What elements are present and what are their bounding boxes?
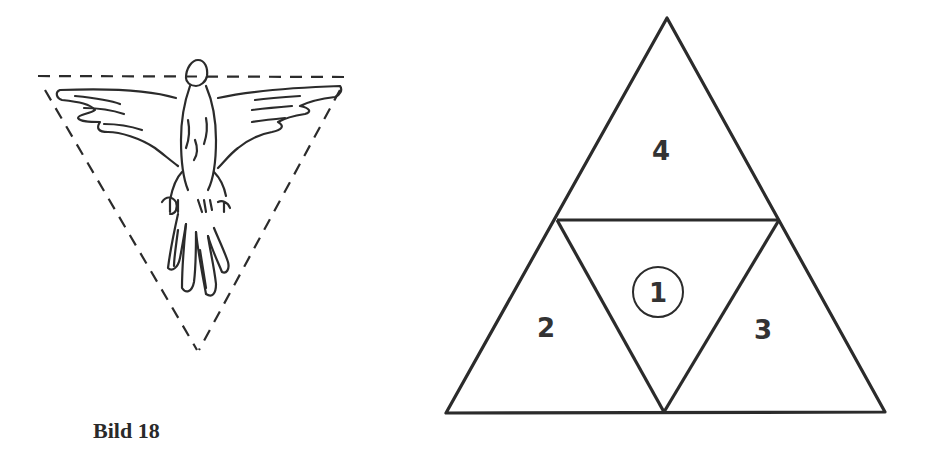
- region-label-1: 1: [649, 278, 667, 308]
- eagle-icon: [57, 60, 341, 296]
- inner-left-edge: [557, 220, 664, 412]
- region-label-4: 4: [652, 136, 670, 166]
- figure-canvas: 4 2 3 1: [0, 0, 931, 460]
- region-label-2: 2: [537, 313, 555, 343]
- figure-caption: Bild 18: [93, 418, 160, 444]
- region-label-3: 3: [754, 315, 772, 345]
- subdivided-triangle: [446, 18, 885, 413]
- dashed-triangle: [38, 76, 346, 350]
- outer-triangle: [446, 18, 885, 413]
